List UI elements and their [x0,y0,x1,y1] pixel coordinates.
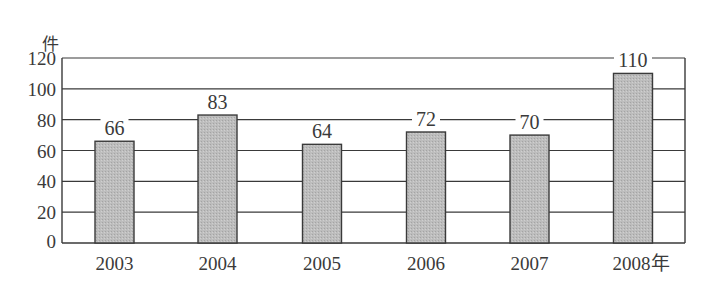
x-tick-label: 2006 [407,253,445,274]
x-axis-labels: 200320042005200620072008年 [96,253,670,274]
x-tick-label: 2005 [303,253,341,274]
y-tick-label: 40 [37,171,56,192]
bar-2007 [510,135,549,243]
y-tick-label: 80 [37,110,56,131]
bar-chart: 204060801001200 6683647270110 2003200420… [0,0,711,285]
x-tick-label: 2008年 [613,253,670,274]
y-tick-label: 20 [37,202,56,223]
bar-value-label: 72 [416,108,436,130]
y-tick-label: 0 [47,231,57,252]
bar-value-label: 70 [520,111,540,133]
bar-2003 [95,141,134,243]
x-tick-label: 2007 [511,253,549,274]
y-tick-label: 60 [37,141,56,162]
bars: 6683647270110 [95,49,653,243]
bar-2008年 [614,73,653,243]
bar-value-label: 64 [312,120,332,142]
bar-2004 [198,115,237,243]
y-axis-ticks: 204060801001200 [28,48,57,252]
bar-value-label: 83 [208,91,228,113]
x-tick-label: 2003 [96,253,134,274]
y-axis-unit-label: 件 [42,35,59,54]
gridlines [62,58,685,212]
bar-2006 [407,132,446,243]
x-tick-label: 2004 [199,253,238,274]
y-tick-label: 100 [28,79,57,100]
bar-value-label: 110 [618,49,647,71]
bar-value-label: 66 [105,117,125,139]
bar-2005 [303,144,342,243]
